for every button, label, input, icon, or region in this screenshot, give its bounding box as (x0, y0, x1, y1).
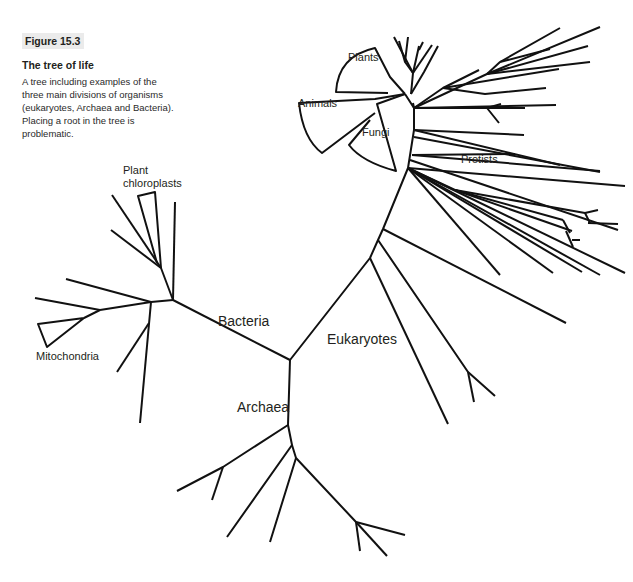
label-chloroplasts-line2: chloroplasts (123, 177, 182, 190)
label-plants: Plants (348, 51, 379, 63)
eukaryotes-branch (290, 27, 625, 424)
label-animals: Animals (298, 97, 337, 109)
tree-of-life-diagram (0, 0, 633, 582)
label-bacteria: Bacteria (218, 313, 269, 329)
bacteria-branch (35, 192, 290, 423)
archaea-branch (177, 360, 405, 556)
label-plant-chloroplasts: Plant chloroplasts (123, 164, 182, 190)
label-mitochondria: Mitochondria (36, 350, 99, 362)
label-fungi: Fungi (362, 126, 390, 138)
label-archaea: Archaea (237, 399, 289, 415)
label-protists: Protists (461, 153, 498, 165)
label-chloroplasts-line1: Plant (123, 164, 182, 177)
label-eukaryotes: Eukaryotes (327, 331, 397, 347)
